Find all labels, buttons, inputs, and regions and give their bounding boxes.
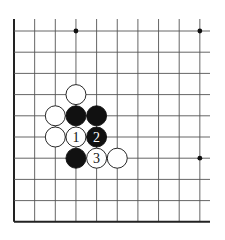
star-point-icon <box>197 156 202 161</box>
stones: 123 <box>45 85 127 169</box>
white-stone-move-3: 3 <box>87 148 107 168</box>
black-stone <box>66 148 86 168</box>
white-stone <box>107 148 127 168</box>
grid-lines <box>14 19 210 222</box>
black-stone-icon <box>87 106 107 126</box>
white-stone <box>45 106 65 126</box>
move-number-label: 2 <box>93 130 100 145</box>
star-point-icon <box>74 29 79 34</box>
white-stone-icon <box>66 85 86 105</box>
white-stone-move-1: 1 <box>66 127 86 147</box>
star-point-icon <box>197 29 202 34</box>
black-stone <box>66 106 86 126</box>
white-stone-icon <box>45 106 65 126</box>
white-stone-icon <box>107 148 127 168</box>
black-stone-move-2: 2 <box>87 127 107 147</box>
black-stone-icon <box>66 106 86 126</box>
white-stone-icon <box>45 127 65 147</box>
black-stone-icon <box>66 148 86 168</box>
go-board: 123 <box>0 0 225 240</box>
move-number-label: 3 <box>93 151 100 166</box>
white-stone <box>45 127 65 147</box>
move-number-label: 1 <box>72 130 79 145</box>
white-stone <box>66 85 86 105</box>
black-stone <box>87 106 107 126</box>
